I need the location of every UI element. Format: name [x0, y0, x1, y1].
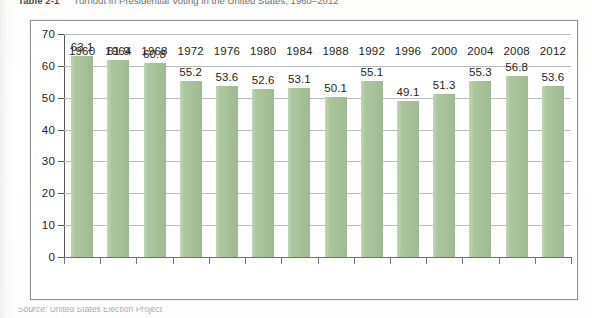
bar [361, 81, 383, 257]
x-axis-tick [281, 257, 282, 264]
x-axis-tick-label: 2008 [503, 45, 529, 57]
y-axis-tick-label: 60 [42, 60, 55, 72]
bar [71, 56, 93, 257]
x-axis-tick [571, 257, 572, 264]
figure-caption-label: Table 2-1 [18, 0, 59, 6]
bar [288, 88, 310, 257]
x-axis-tick-label: 1996 [395, 45, 421, 57]
bar-slot: 55.2 [173, 34, 209, 257]
x-axis-tick-label: 2012 [540, 45, 566, 57]
bar-value-label: 53.6 [216, 71, 239, 83]
x-axis-tick [245, 257, 246, 264]
x-axis-tick [354, 257, 355, 264]
y-axis-tick-label: 0 [48, 251, 55, 263]
x-axis-tick [462, 257, 463, 264]
bar-value-label: 49.1 [397, 86, 420, 98]
bar [469, 81, 491, 257]
bar-value-label: 55.3 [469, 66, 492, 78]
y-axis-tick-label: 10 [42, 219, 55, 231]
x-axis-tick-label: 2000 [431, 45, 457, 57]
x-axis-tick [390, 257, 391, 264]
x-axis-tick-label: 1992 [359, 45, 385, 57]
x-axis-tick-label: 1964 [105, 45, 131, 57]
x-axis-tick [499, 257, 500, 264]
bar-value-label: 55.2 [179, 66, 202, 78]
bar-slot: 55.3 [462, 34, 498, 257]
x-axis-tick-label: 2004 [467, 45, 493, 57]
bar-slot: 55.1 [354, 34, 390, 257]
plot-area: 010203040506070 63.161.960.855.253.652.6… [64, 34, 571, 257]
x-axis-tick [535, 257, 536, 264]
bar-value-label: 55.1 [360, 66, 383, 78]
bar-slot: 56.8 [499, 34, 535, 257]
bar [180, 81, 202, 257]
figure-caption-text: Turnout in Presidential Voting in the Un… [73, 0, 338, 6]
bar [144, 63, 166, 257]
bar [107, 60, 129, 257]
x-axis-tick-label: 1988 [322, 45, 348, 57]
bar-value-label: 53.6 [541, 71, 564, 83]
x-axis-tick-label: 1972 [178, 45, 204, 57]
bar-value-label: 53.1 [288, 73, 311, 85]
y-axis-tick-label: 70 [42, 28, 55, 40]
bar [397, 101, 419, 257]
bar-slot: 51.3 [426, 34, 462, 257]
source-note-label: Source: [18, 307, 47, 314]
x-axis-tick-label: 1984 [286, 45, 312, 57]
y-axis-tick-label: 20 [42, 187, 55, 199]
y-axis-tick-label: 40 [42, 124, 55, 136]
bar [252, 89, 274, 257]
bar-value-label: 52.6 [252, 74, 275, 86]
bar-slot: 52.6 [245, 34, 281, 257]
x-axis-tick [136, 257, 137, 264]
x-axis-tick-label: 1968 [141, 45, 167, 57]
bar [542, 86, 564, 257]
bar [433, 94, 455, 257]
bar [325, 97, 347, 257]
bar-slot: 50.1 [318, 34, 354, 257]
bar-slot: 53.6 [209, 34, 245, 257]
x-axis-tick-label: 1980 [250, 45, 276, 57]
bar-series: 63.161.960.855.253.652.653.150.155.149.1… [64, 34, 571, 257]
x-axis-tick [100, 257, 101, 264]
bar [216, 86, 238, 257]
y-axis-tick-label: 50 [42, 92, 55, 104]
x-axis-tick [64, 257, 65, 264]
x-axis-tick [318, 257, 319, 264]
bar-slot: 61.9 [100, 34, 136, 257]
x-axis-tick-label: 1960 [69, 45, 95, 57]
figure-caption: Table 2-1Turnout in Presidential Voting … [0, 0, 592, 11]
bar-value-label: 51.3 [433, 79, 456, 91]
bar-value-label: 50.1 [324, 82, 347, 94]
bar-value-label: 56.8 [505, 61, 528, 73]
bar-slot: 53.1 [281, 34, 317, 257]
bar-slot: 53.6 [535, 34, 571, 257]
bar-slot: 60.8 [136, 34, 172, 257]
chart-frame: 010203040506070 63.161.960.855.253.652.6… [30, 20, 578, 300]
source-note-text: United States Election Project [50, 307, 162, 314]
source-note: Source: United States Election Project [0, 307, 592, 318]
x-axis-tick [426, 257, 427, 264]
bar [506, 76, 528, 257]
x-axis-tick [209, 257, 210, 264]
y-axis-tick-label: 30 [42, 155, 55, 167]
x-axis-tick-label: 1976 [214, 45, 240, 57]
bar-slot: 49.1 [390, 34, 426, 257]
bar-slot: 63.1 [64, 34, 100, 257]
x-axis-tick [173, 257, 174, 264]
